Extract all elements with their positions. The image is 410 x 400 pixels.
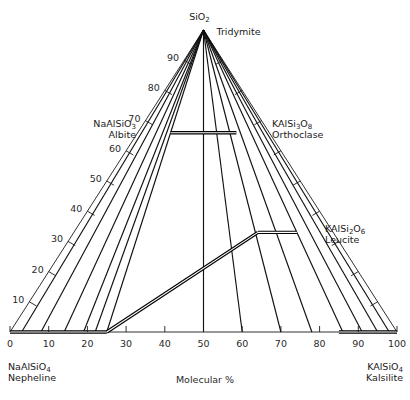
phase-mineral-orthoclase: Orthoclase bbox=[272, 129, 324, 140]
bottom-tick-label: 100 bbox=[388, 338, 406, 349]
ternary-plot-svg: 0102030405060708090100102030405060708090… bbox=[0, 0, 410, 400]
bottom-left-mineral-label: Nepheline bbox=[8, 372, 56, 383]
bottom-tick-label: 70 bbox=[275, 338, 287, 349]
tick-labels-layer: 0102030405060708090100102030405060708090 bbox=[7, 52, 406, 349]
tridymite-ray bbox=[204, 30, 243, 332]
left-tick-label: 50 bbox=[90, 173, 102, 184]
text-labels-layer: SiO2TridymiteNaAlSiO4NephelineKAlSiO4Kal… bbox=[8, 11, 404, 385]
tridymite-ray bbox=[204, 30, 281, 332]
tridymite-ray bbox=[204, 30, 363, 332]
left-tick-label: 20 bbox=[32, 264, 44, 275]
bottom-tick-label: 90 bbox=[352, 338, 364, 349]
bottom-tick-label: 50 bbox=[197, 338, 209, 349]
phase-mineral-albite: Albite bbox=[109, 129, 137, 140]
left-tick-label: 80 bbox=[148, 82, 160, 93]
tridymite-ray bbox=[64, 30, 203, 332]
tridymite-ray bbox=[204, 30, 390, 332]
tridymite-ray bbox=[107, 30, 204, 332]
tridymite-ray bbox=[204, 30, 343, 332]
left-tick bbox=[29, 302, 36, 306]
bottom-tick-label: 40 bbox=[159, 338, 171, 349]
apex-mineral-label: Tridymite bbox=[216, 26, 261, 37]
left-tick-label: 30 bbox=[51, 233, 63, 244]
bottom-tick-label: 20 bbox=[81, 338, 93, 349]
left-tick-label: 40 bbox=[70, 203, 82, 214]
apex-formula-label: SiO2 bbox=[189, 11, 210, 24]
tridymite-ray bbox=[41, 30, 204, 332]
bottom-tick-label: 10 bbox=[43, 338, 55, 349]
left-tick-label: 90 bbox=[167, 52, 179, 63]
left-tick-label: 10 bbox=[12, 294, 24, 305]
left-tick bbox=[68, 241, 75, 245]
bottom-tick-label: 60 bbox=[236, 338, 248, 349]
phase-mineral-leucite: Leucite bbox=[325, 234, 360, 245]
left-tick-label: 60 bbox=[109, 143, 121, 154]
bottom-tick-label: 80 bbox=[314, 338, 326, 349]
tridymite-ray bbox=[95, 30, 203, 332]
ternary-diagram-figure: 0102030405060708090100102030405060708090… bbox=[0, 0, 410, 400]
tridymite-rays-layer bbox=[22, 30, 390, 332]
tridymite-ray bbox=[204, 30, 312, 332]
bottom-tick-label: 0 bbox=[7, 338, 13, 349]
axis-caption-label: Molecular % bbox=[176, 374, 234, 385]
bottom-right-mineral-label: Kalsilite bbox=[366, 372, 403, 383]
bottom-tick-label: 30 bbox=[120, 338, 132, 349]
tridymite-ray bbox=[204, 30, 378, 332]
left-tick bbox=[49, 272, 56, 276]
